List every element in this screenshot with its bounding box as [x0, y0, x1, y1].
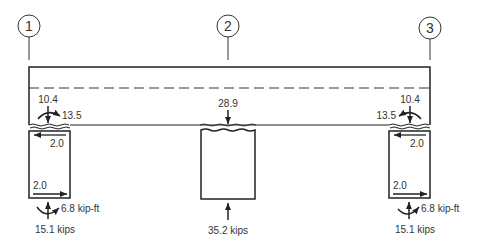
- left-top-shear-label: 2.0: [50, 138, 64, 149]
- gridline-3-label: 3: [426, 20, 434, 36]
- right-moment-label: 13.5: [377, 110, 397, 121]
- right-base-shear-label: 2.0: [393, 180, 407, 191]
- left-vertical-label: 10.4: [38, 94, 58, 105]
- right-top-shear-label: 2.0: [410, 138, 424, 149]
- gridline-1-label: 1: [25, 18, 33, 34]
- left-moment-label: 13.5: [62, 110, 82, 121]
- left-joint-forces: 10.4 13.5: [38, 94, 82, 123]
- center-vertical-label: 28.9: [218, 98, 238, 109]
- gridline-3: 3: [419, 17, 441, 60]
- right-column: 2.0 2.0 6.8 kip-ft 15.1 kips: [389, 131, 460, 235]
- left-base-shear-label: 2.0: [33, 180, 47, 191]
- gridline-1: 1: [18, 15, 40, 60]
- right-vertical-label: 10.4: [400, 94, 420, 105]
- right-base-moment-label: 6.8 kip-ft: [421, 203, 460, 214]
- center-axial-label: 35.2 kips: [208, 225, 248, 236]
- left-column: 2.0 2.0 6.8 kip-ft 15.1 kips: [29, 131, 100, 235]
- right-axial-label: 15.1 kips: [395, 224, 435, 235]
- center-joint-forces: 28.9: [218, 98, 238, 124]
- right-joint-forces: 10.4 13.5: [377, 94, 421, 123]
- frame-diagram: 1 2 3 10.4 13.5 28.9 10.4: [0, 0, 479, 246]
- left-moment-arrow-icon: [38, 113, 60, 119]
- center-column: 35.2 kips: [201, 129, 255, 236]
- gridline-2: 2: [217, 15, 239, 60]
- left-axial-label: 15.1 kips: [35, 224, 75, 235]
- gridline-2-label: 2: [224, 18, 232, 34]
- left-base-moment-label: 6.8 kip-ft: [61, 203, 100, 214]
